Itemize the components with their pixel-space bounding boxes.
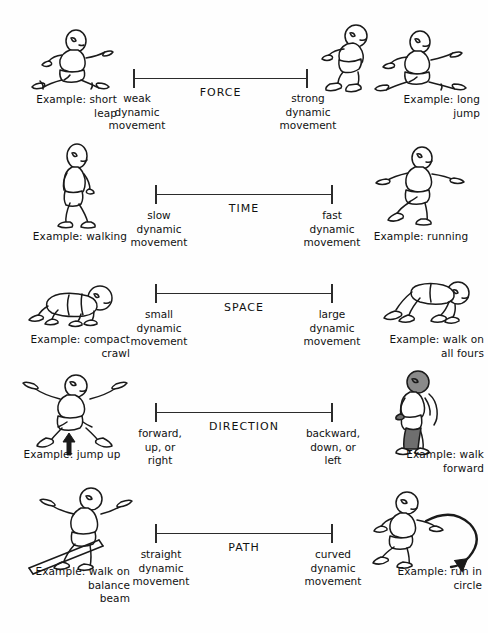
pole-label-right: large dynamic movement	[299, 308, 365, 349]
scale-line	[155, 194, 333, 195]
example-label-left: Example: jump up	[9, 448, 135, 462]
example-label-left: Example: walk on balance beam	[6, 565, 130, 606]
pole-label-right: strong dynamic movement	[273, 92, 343, 133]
pole-label-right: backward, down, or left	[298, 427, 368, 468]
pole-label-left: slow dynamic movement	[126, 209, 192, 250]
pole-label-left: forward, up, or right	[127, 427, 193, 468]
row-force: Example: short leap FORCE weak dynamic m…	[0, 0, 488, 130]
scale-line	[155, 533, 333, 534]
example-label-left: Example: compact crawl	[8, 333, 130, 360]
running-leap-figure	[26, 28, 122, 90]
example-label-right: Example: walk forward	[366, 448, 484, 475]
diagram-sheet: Example: short leap FORCE weak dynamic m…	[0, 0, 488, 633]
crouch-takeoff-figure	[320, 22, 380, 94]
example-label-right: Example: walk on all fours	[364, 333, 484, 360]
scale-line	[155, 412, 333, 413]
walking-figure	[46, 143, 116, 231]
example-label-left: Example: short leap	[10, 93, 117, 120]
row-path: Example: walk on balance beam PATH strai…	[0, 488, 488, 633]
curved-arrow-icon	[420, 510, 486, 570]
example-label-right: Example: long jump	[375, 93, 480, 120]
pole-label-left: weak dynamic movement	[104, 92, 170, 133]
example-label-right: Example: run in circle	[364, 565, 482, 592]
pole-label-left: small dynamic movement	[126, 308, 192, 349]
walk-all-fours-figure	[379, 272, 477, 334]
scale-line	[155, 293, 333, 294]
compact-crawl-figure	[24, 280, 120, 328]
walk-forward-figure	[382, 370, 452, 458]
pole-label-right: fast dynamic movement	[299, 209, 365, 250]
pole-label-right: curved dynamic movement	[298, 548, 368, 589]
scale-line	[133, 78, 308, 79]
long-jump-figure	[372, 30, 474, 92]
row-space: Example: compact crawl SPACE small dynam…	[0, 255, 488, 370]
running-figure	[370, 145, 468, 225]
pole-label-left: straight dynamic movement	[126, 548, 196, 589]
row-direction: Example: jump up DIRECTION forward, up, …	[0, 370, 488, 488]
example-label-left: Example: walking	[17, 230, 143, 244]
row-time: Example: walking TIME slow dynamic movem…	[0, 130, 488, 255]
example-label-right: Example: running	[358, 230, 484, 244]
